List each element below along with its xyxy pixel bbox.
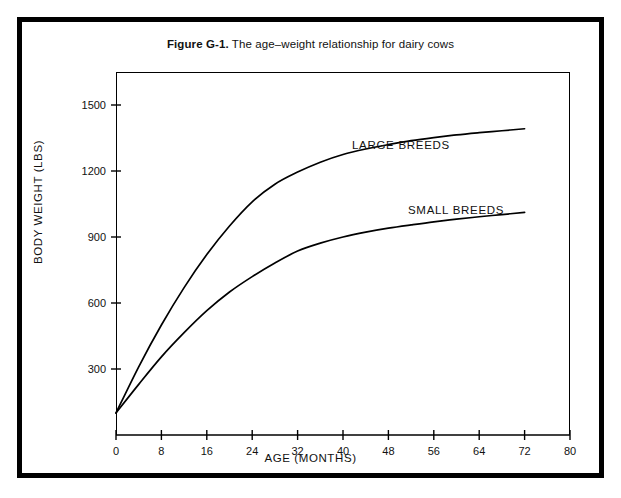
y-tick-label: 300 <box>70 363 106 375</box>
x-axis-title: AGE (MONTHS) <box>0 452 621 464</box>
y-axis-ticks <box>111 105 121 369</box>
y-tick-label: 600 <box>70 297 106 309</box>
chart-canvas <box>0 0 621 498</box>
y-tick-label: 1500 <box>70 99 106 111</box>
series-label-small-breeds: SMALL BREEDS <box>408 204 504 216</box>
curve-small-breeds <box>116 212 525 413</box>
figure-container: Figure G-1. The age–weight relationship … <box>0 0 621 498</box>
y-axis-title: BODY WEIGHT (LBS) <box>32 122 44 282</box>
series-label-large-breeds: LARGE BREEDS <box>352 139 450 151</box>
curve-large-breeds <box>116 129 525 413</box>
y-tick-label: 900 <box>70 231 106 243</box>
y-tick-label: 1200 <box>70 165 106 177</box>
